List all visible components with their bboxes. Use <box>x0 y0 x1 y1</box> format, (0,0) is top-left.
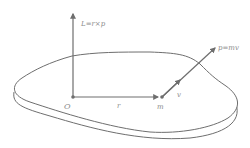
plate-top-outline <box>14 52 237 132</box>
angular-momentum-diagram: L=r×p p=mv v r O m <box>0 0 250 148</box>
momentum-label: p=mv <box>218 44 239 52</box>
velocity-label: v <box>177 91 181 99</box>
mass-point <box>160 95 164 99</box>
origin-point <box>71 95 75 99</box>
mass-label: m <box>157 103 164 111</box>
origin-label: O <box>64 102 71 111</box>
angular-momentum-label: L=r×p <box>80 20 106 28</box>
